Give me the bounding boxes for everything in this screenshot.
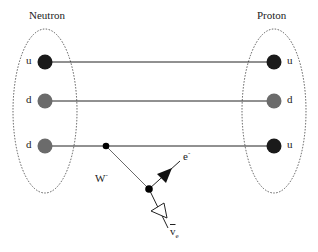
proton-label: Proton [257, 9, 286, 21]
neutron-quark-u [38, 55, 53, 70]
electron-label: e- [183, 149, 190, 162]
proton-quark-label-1: u [287, 54, 293, 66]
neutron-quark-d1 [38, 94, 53, 109]
vertex-quark-w [103, 143, 110, 150]
neutron-quark-label-2: d [26, 93, 32, 105]
electron-arrow-icon [157, 168, 172, 183]
proton-quark-u2 [267, 139, 282, 154]
antineutrino-label: ve [170, 225, 179, 240]
neutron-quark-label-1: u [26, 54, 32, 66]
proton-quark-u1 [267, 55, 282, 70]
neutron-quark-label-3: d [26, 138, 32, 150]
neutron-label: Neutron [29, 9, 65, 21]
w-boson-line [106, 146, 149, 189]
vertex-w-decay [145, 185, 153, 193]
proton-quark-d [267, 94, 282, 109]
neutron-quark-d2 [38, 139, 53, 154]
proton-boundary [242, 29, 306, 193]
proton-quark-label-2: d [287, 93, 293, 105]
feynman-diagram [0, 0, 318, 252]
w-boson-label: W- [95, 171, 108, 184]
proton-quark-label-3: u [287, 138, 293, 150]
neutron-boundary [13, 29, 77, 193]
antineutrino-arrow-icon [151, 203, 167, 218]
